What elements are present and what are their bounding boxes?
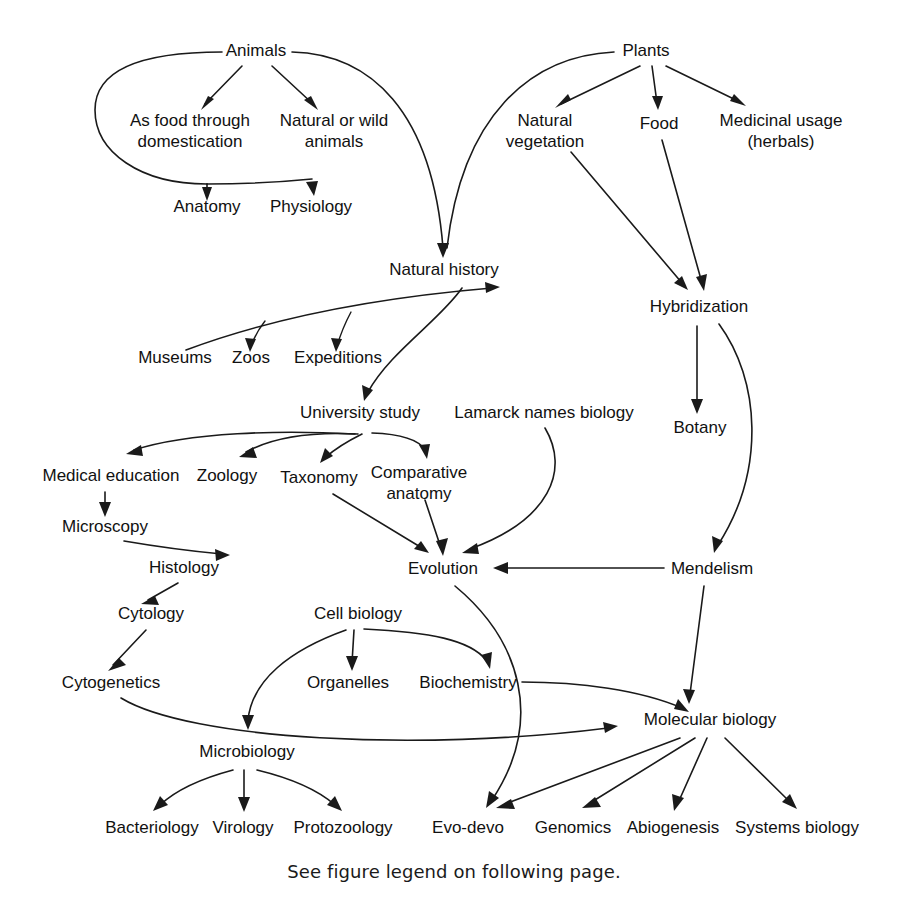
node-plants[interactable]: Plants xyxy=(622,41,669,60)
node-natural-vegetation[interactable]: Naturalvegetation xyxy=(506,111,584,151)
edge-food-to-hybridization xyxy=(662,140,702,283)
edge-molecular-biology-to-systems-biology xyxy=(725,738,790,802)
arrowhead-lamarck-evolution xyxy=(462,543,479,554)
arrowhead-evolution-evo-devo xyxy=(486,791,499,808)
figure-page: Animals Plants As food throughdomesticat… xyxy=(0,0,908,900)
arrowhead-cell-microbiology xyxy=(242,715,254,730)
arrowhead-natvege-hybridization xyxy=(674,276,688,290)
edge-molecular-biology-to-evo-devo xyxy=(505,738,680,804)
node-virology[interactable]: Virology xyxy=(212,818,274,837)
arrowhead-university-taxonomy xyxy=(320,448,333,463)
edge-molecular-biology-to-genomics xyxy=(590,738,695,803)
node-microbiology[interactable]: Microbiology xyxy=(199,742,295,761)
node-medical-education[interactable]: Medical education xyxy=(42,466,179,485)
edge-university-to-comparative-anatomy xyxy=(372,433,425,450)
edge-mendelism-to-molecular-biology xyxy=(690,586,704,694)
node-microscopy[interactable]: Microscopy xyxy=(62,517,148,536)
node-as-food-through-domestication[interactable]: As food throughdomestication xyxy=(130,111,250,151)
edge-university-to-taxonomy xyxy=(326,434,362,457)
arrowhead-microbiology-protozoology xyxy=(327,796,342,811)
node-taxonomy[interactable]: Taxonomy xyxy=(280,468,358,487)
figure-caption: See figure legend on following page. xyxy=(0,861,908,882)
edge-microbiology-to-bacteriology xyxy=(160,770,233,805)
edge-natural-history-to-university-study xyxy=(368,288,462,392)
node-zoology[interactable]: Zoology xyxy=(197,466,258,485)
edge-lamarck-to-evolution xyxy=(470,428,555,549)
node-food[interactable]: Food xyxy=(640,114,679,133)
node-evolution[interactable]: Evolution xyxy=(408,559,478,578)
node-molecular-biology[interactable]: Molecular biology xyxy=(644,710,777,729)
node-anatomy[interactable]: Anatomy xyxy=(173,197,241,216)
arrowhead-hybridization-botany xyxy=(691,399,703,414)
arrowhead-museums-natural-history xyxy=(485,282,500,293)
edge-microbiology-to-protozoology xyxy=(257,770,335,805)
edge-cell-biology-to-biochemistry xyxy=(364,629,486,660)
node-histology[interactable]: Histology xyxy=(149,558,219,577)
arrowhead-microbiology-virology xyxy=(238,797,250,812)
node-zoos[interactable]: Zoos xyxy=(232,348,270,367)
node-botany[interactable]: Botany xyxy=(674,418,727,437)
node-biochemistry[interactable]: Biochemistry xyxy=(419,673,517,692)
edge-molecular-biology-to-abiogenesis xyxy=(678,738,707,803)
edge-evolution-to-evo-devo xyxy=(455,586,521,800)
edge-microscopy-to-histology xyxy=(124,541,222,554)
edge-natural-vegetation-to-hybridization xyxy=(571,152,682,283)
node-genomics[interactable]: Genomics xyxy=(535,818,612,837)
arrowhead-taxonomy-evolution xyxy=(414,541,429,553)
node-physiology[interactable]: Physiology xyxy=(270,197,353,216)
edge-cytogenetics-to-molecular-biology xyxy=(121,698,608,740)
arrowhead-plants-food xyxy=(652,96,663,110)
arrowhead-microbiology-bacteriology xyxy=(153,796,168,811)
arrowhead-medical-microscopy xyxy=(99,502,111,517)
arrowhead-university-comparative xyxy=(419,444,430,459)
edge-plants-to-medicinal-usage xyxy=(666,66,740,102)
node-protozoology[interactable]: Protozoology xyxy=(293,818,393,837)
node-cytology[interactable]: Cytology xyxy=(118,604,185,623)
arrowhead-comparative-evolution xyxy=(436,538,448,556)
edge-university-to-zoology xyxy=(246,434,358,452)
node-systems-biology[interactable]: Systems biology xyxy=(735,818,859,837)
node-evo-devo[interactable]: Evo-devo xyxy=(432,818,504,837)
node-organelles[interactable]: Organelles xyxy=(307,673,389,692)
arrowhead-molecular-abiogenesis xyxy=(672,794,684,811)
edge-animals-to-natural-wild xyxy=(272,66,313,104)
node-animals[interactable]: Animals xyxy=(226,41,286,60)
edge-animals-to-physiology xyxy=(207,179,312,184)
concept-map-diagram: Animals Plants As food throughdomesticat… xyxy=(0,0,908,900)
node-natural-or-wild-animals[interactable]: Natural or wildanimals xyxy=(280,111,389,151)
arrowhead-food-hybridization xyxy=(696,274,707,291)
edge-biochemistry-to-molecular-biology xyxy=(522,682,682,708)
node-label-layer: Animals Plants As food throughdomesticat… xyxy=(42,41,859,837)
node-university-study[interactable]: University study xyxy=(300,403,420,422)
arrowhead-cell-biochemistry xyxy=(481,652,492,669)
arrowhead-animals-as-food xyxy=(201,96,214,110)
arrowhead-university-medical xyxy=(126,445,143,456)
arrowhead-plants-medicinal xyxy=(730,94,746,106)
node-hybridization[interactable]: Hybridization xyxy=(650,297,748,316)
arrowhead-mendelism-molecular xyxy=(683,689,695,704)
node-cell-biology[interactable]: Cell biology xyxy=(314,604,402,623)
node-medicinal-usage[interactable]: Medicinal usage(herbals) xyxy=(720,111,843,151)
node-abiogenesis[interactable]: Abiogenesis xyxy=(627,818,720,837)
node-cytogenetics[interactable]: Cytogenetics xyxy=(62,673,160,692)
node-comparative-anatomy[interactable]: Comparativeanatomy xyxy=(371,463,467,503)
arrowhead-cell-organelles xyxy=(346,656,358,671)
arrowhead-mendelism-evolution xyxy=(493,562,508,574)
node-lamarck-names-biology[interactable]: Lamarck names biology xyxy=(454,403,634,422)
arrowhead-plants-natural-vegetation xyxy=(555,94,571,108)
arrowhead-cytogenetics-molecular xyxy=(603,722,618,733)
node-natural-history[interactable]: Natural history xyxy=(389,260,499,279)
node-mendelism[interactable]: Mendelism xyxy=(671,559,753,578)
arrowhead-animals-physiology xyxy=(306,181,318,196)
node-bacteriology[interactable]: Bacteriology xyxy=(105,818,199,837)
node-museums[interactable]: Museums xyxy=(138,348,212,367)
node-expeditions[interactable]: Expeditions xyxy=(294,348,382,367)
edge-plants-to-natural-vegetation xyxy=(561,66,640,104)
edge-university-to-medical-education xyxy=(134,432,355,450)
